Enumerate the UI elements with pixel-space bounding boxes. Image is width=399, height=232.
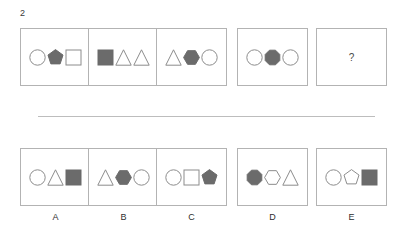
white-circle-icon bbox=[325, 169, 342, 186]
white-circle-icon bbox=[29, 49, 46, 66]
panel-contents bbox=[238, 29, 307, 85]
gray-octagon-icon bbox=[246, 169, 263, 186]
panel-4 bbox=[237, 28, 308, 86]
white-triangle-icon bbox=[133, 49, 150, 66]
white-pentagon-icon bbox=[343, 169, 360, 186]
white-triangle-icon bbox=[282, 169, 299, 186]
white-circle-icon bbox=[133, 169, 150, 186]
item-number: 2 bbox=[20, 8, 25, 18]
panel-contents bbox=[89, 29, 158, 85]
option-panel-b[interactable] bbox=[88, 148, 159, 206]
white-circle-icon bbox=[282, 49, 299, 66]
question-mark: ? bbox=[317, 29, 386, 85]
panel-3 bbox=[156, 28, 227, 86]
panel-contents bbox=[89, 149, 158, 205]
gray-hexagon-icon bbox=[115, 169, 132, 186]
white-circle-icon bbox=[165, 169, 182, 186]
section-divider bbox=[38, 116, 375, 117]
white-circle-icon bbox=[246, 49, 263, 66]
option-label-e: E bbox=[316, 212, 387, 222]
white-triangle-icon bbox=[165, 49, 182, 66]
option-label-c: C bbox=[156, 212, 227, 222]
white-triangle-icon bbox=[97, 169, 114, 186]
option-label-a: A bbox=[20, 212, 91, 222]
panel-contents bbox=[238, 149, 307, 205]
white-square-icon bbox=[65, 49, 82, 66]
panel-contents bbox=[21, 29, 90, 85]
option-panel-a[interactable] bbox=[20, 148, 91, 206]
gray-octagon-icon bbox=[264, 49, 281, 66]
panel-1 bbox=[20, 28, 91, 86]
option-label-b: B bbox=[88, 212, 159, 222]
white-triangle-icon bbox=[115, 49, 132, 66]
gray-square-icon bbox=[361, 169, 378, 186]
gray-pentagon-icon bbox=[47, 49, 64, 66]
option-label-d: D bbox=[237, 212, 308, 222]
panel-2 bbox=[88, 28, 159, 86]
option-panel-d[interactable] bbox=[237, 148, 308, 206]
panel-contents bbox=[157, 29, 226, 85]
gray-square-icon bbox=[65, 169, 82, 186]
gray-hexagon-icon bbox=[183, 49, 200, 66]
panel-5-question: ? bbox=[316, 28, 387, 86]
panel-contents: ? bbox=[317, 29, 386, 85]
white-circle-icon bbox=[201, 49, 218, 66]
gray-pentagon-icon bbox=[201, 169, 218, 186]
panel-contents bbox=[157, 149, 226, 205]
panel-contents bbox=[21, 149, 90, 205]
gray-square-icon bbox=[97, 49, 114, 66]
option-panel-c[interactable] bbox=[156, 148, 227, 206]
white-hexagon-icon bbox=[264, 169, 281, 186]
option-panel-e[interactable] bbox=[316, 148, 387, 206]
white-square-icon bbox=[183, 169, 200, 186]
white-triangle-icon bbox=[47, 169, 64, 186]
panel-contents bbox=[317, 149, 386, 205]
white-circle-icon bbox=[29, 169, 46, 186]
